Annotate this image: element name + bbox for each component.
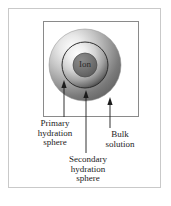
callout-label-secondary-line3: sphere: [52, 174, 124, 184]
callout-leader-bulk: [107, 97, 112, 128]
callout-label-bulk-line2: solution: [97, 140, 143, 150]
callout-label-bulk: Bulk solution: [97, 130, 143, 149]
ion-label: Ion: [63, 59, 107, 69]
callout-label-primary-line3: sphere: [28, 138, 82, 148]
hydration-sphere-diagram: Ion Primary hydration sphere Bulk soluti…: [0, 0, 171, 206]
callout-label-primary: Primary hydration sphere: [28, 119, 82, 148]
callout-label-secondary: Secondary hydration sphere: [52, 155, 124, 184]
